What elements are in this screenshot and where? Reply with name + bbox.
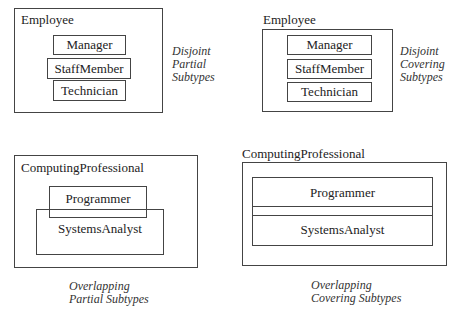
caption-line: Subtypes [172, 71, 215, 84]
subtype-label: SystemsAnalyst [58, 221, 142, 237]
subtype-technician: Technician [53, 80, 126, 101]
subtype-manager: Manager [287, 35, 372, 55]
supertype-label: ComputingProfessional [242, 146, 365, 162]
subtype-staffmember: StaffMember [287, 59, 372, 79]
caption-line: Covering Subtypes [311, 292, 401, 305]
caption-line: Partial Subtypes [69, 293, 149, 306]
overlap-divider [252, 215, 433, 216]
subtype-manager: Manager [53, 35, 126, 55]
subtype-programmer: Programmer [49, 186, 147, 218]
supertype-label: Employee [21, 12, 74, 28]
supertype-label: Employee [263, 12, 316, 28]
subtype-staffmember: StaffMember [47, 58, 131, 79]
subtype-systemsanalyst: SystemsAnalyst [252, 222, 433, 238]
subtype-label: Programmer [66, 191, 131, 207]
overlap-divider [252, 206, 433, 207]
caption-line: Subtypes [400, 71, 443, 84]
supertype-label: ComputingProfessional [21, 160, 144, 176]
subtype-technician: Technician [287, 82, 372, 102]
subtype-label: Programmer [310, 185, 375, 201]
